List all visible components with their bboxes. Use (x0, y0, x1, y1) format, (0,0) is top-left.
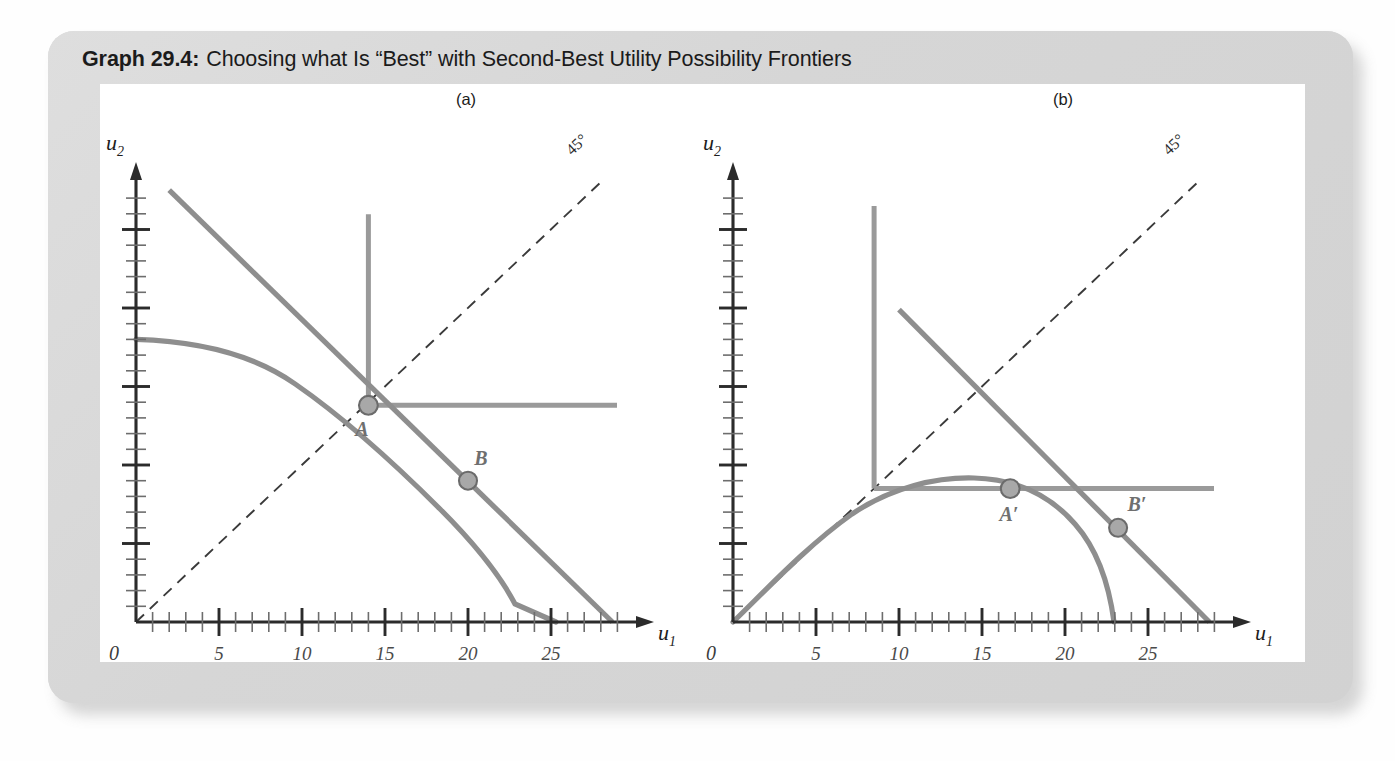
x-tick-label-a-5: 5 (214, 643, 224, 662)
caption-text: Choosing what Is “Best” with Second-Best… (206, 47, 851, 72)
point-B-label: B (473, 447, 487, 469)
figure-caption: Graph 29.4: Choosing what Is “Best” with… (82, 42, 1182, 76)
panel-a: (a) 45° u2 u1 (100, 84, 702, 662)
y-axis-name-a: u2 (106, 130, 124, 159)
diagonal-45-label: 45° (562, 130, 590, 158)
x-axis-arrow-a (636, 616, 654, 628)
x-tick-label-a-25: 25 (542, 643, 561, 662)
plot-canvas: (a) 45° u2 u1 (100, 84, 1305, 662)
panel-b: (b) 45° u2 u1 (697, 84, 1299, 662)
x-tick-label-b-10: 10 (890, 643, 910, 662)
origin-label-b: 0 (706, 642, 716, 662)
point-B-prime-marker[interactable] (1109, 519, 1127, 537)
diagonal-45-label-b: 45° (1159, 130, 1187, 158)
utility-possibility-frontier-b (733, 478, 1114, 622)
y-axis-name-b: u2 (703, 130, 721, 159)
panel-a-plot: 45° u2 u1 (100, 84, 702, 662)
point-A-prime-label: A′ (998, 503, 1019, 525)
x-axis-name-a: u1 (658, 620, 676, 649)
x-tick-label-a-20: 20 (459, 643, 479, 662)
x-tick-label-b-20: 20 (1056, 643, 1076, 662)
x-tick-label-a-10: 10 (293, 643, 313, 662)
x-tick-label-b-15: 15 (973, 643, 992, 662)
origin-label-a: 0 (109, 642, 119, 662)
x-axis-name-b: u1 (1255, 620, 1273, 649)
x-axis-arrow-b (1233, 616, 1251, 628)
y-axis-arrow-a (130, 162, 142, 180)
utility-possibility-frontier-a (136, 339, 556, 622)
point-A-label: A (353, 418, 368, 440)
point-B-prime-label: B′ (1127, 493, 1147, 515)
point-B-marker[interactable] (459, 472, 477, 490)
caption-number: Graph 29.4: (82, 47, 199, 72)
y-axis-arrow-b (727, 162, 739, 180)
point-A-prime-marker[interactable] (1001, 479, 1020, 498)
figure-page: Graph 29.4: Choosing what Is “Best” with… (0, 0, 1395, 761)
x-tick-label-b-25: 25 (1139, 643, 1158, 662)
social-indifference-line-b (899, 310, 1209, 622)
x-tick-label-b-5: 5 (811, 643, 821, 662)
panel-b-plot: 45° u2 u1 (697, 84, 1299, 662)
x-tick-label-a-15: 15 (376, 643, 395, 662)
point-A-marker[interactable] (359, 396, 378, 415)
